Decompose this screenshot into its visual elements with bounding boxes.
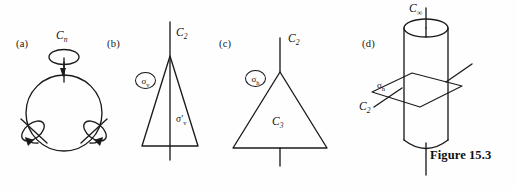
figure-container: (a) Cn (b) C2 σv σ′v (0, 0, 517, 190)
panel-b-drawing (100, 0, 220, 190)
c2-axis-segment-left (374, 88, 402, 107)
panel-c-drawing (215, 0, 355, 190)
c2-axis-segment-right (446, 64, 472, 82)
equilateral-triangle-body (233, 72, 327, 148)
circle-body (26, 75, 102, 151)
figure-caption: Figure 15.3 (430, 148, 491, 163)
